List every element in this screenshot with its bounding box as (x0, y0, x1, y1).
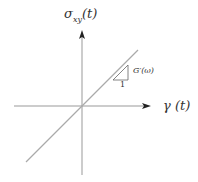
stress-strain-diagram (0, 0, 198, 182)
y-axis-label: σxy(t) (64, 6, 97, 24)
slope-label: G′(ω) (133, 66, 154, 75)
slope-run-label: 1 (120, 80, 125, 89)
x-axis-label: γ (t) (163, 98, 190, 113)
y-axis (79, 30, 85, 175)
